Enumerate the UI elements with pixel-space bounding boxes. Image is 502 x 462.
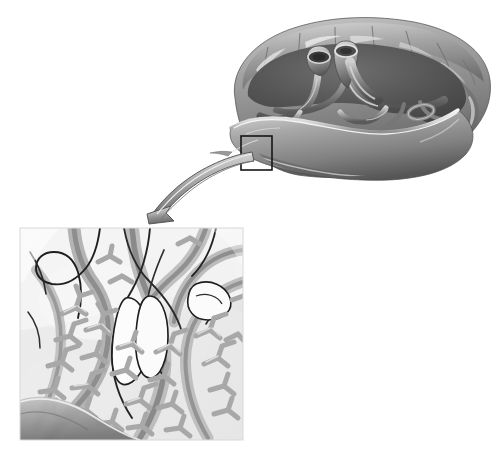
figure-root: Placenta with magnified detail of chorio… — [0, 0, 502, 462]
illustration-canvas — [0, 0, 502, 462]
villi-detail-panel[interactable] — [18, 228, 243, 440]
